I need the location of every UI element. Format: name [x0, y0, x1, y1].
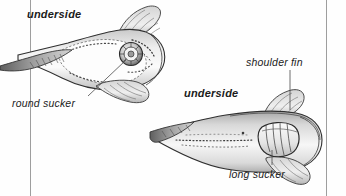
long-sucker-shape	[258, 122, 299, 157]
lower-fin-left-specimen	[96, 80, 149, 102]
label-long-sucker: long sucker	[229, 168, 285, 180]
specimen-round-sucker-fish	[0, 6, 165, 103]
round-sucker-shape	[120, 43, 143, 66]
label-shoulder-fin: shoulder fin	[246, 56, 303, 68]
label-round-sucker: round sucker	[12, 97, 75, 109]
figure-canvas: underside underside round sucker shoulde…	[0, 0, 346, 196]
label-underside-left: underside	[27, 8, 81, 20]
label-underside-right: underside	[184, 87, 238, 99]
